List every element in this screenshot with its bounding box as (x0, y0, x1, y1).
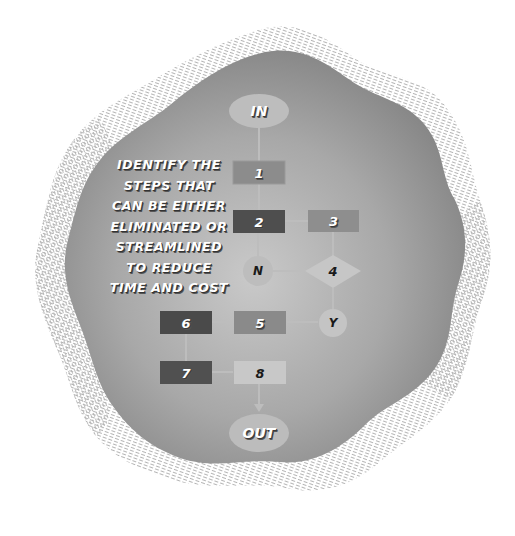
process-flow-diagram: IN 1 2 3 4 N Y 5 6 7 8 OUT IDENTIFY THE … (0, 0, 515, 536)
caption-line: STEPS THAT (103, 176, 235, 197)
caption-line: CAN BE EITHER (103, 196, 235, 217)
caption-line: ELIMINATED OR (103, 217, 235, 238)
no-label: N (243, 262, 273, 280)
step-2-label: 2 (233, 212, 285, 232)
step-7-label: 7 (160, 363, 212, 383)
caption-line: IDENTIFY THE (103, 155, 235, 176)
end-label: OUT (229, 424, 289, 442)
caption-line: TIME AND COST (103, 278, 235, 299)
caption-line: STREAMLINED (103, 237, 235, 258)
step-6-label: 6 (160, 313, 212, 333)
step-1-label: 1 (233, 163, 285, 183)
start-label: IN (229, 102, 289, 120)
diagram-caption: IDENTIFY THE STEPS THAT CAN BE EITHER EL… (103, 155, 235, 299)
yes-label: Y (319, 314, 347, 332)
step-4-label: 4 (318, 261, 348, 281)
step-5-label: 5 (234, 313, 286, 333)
step-3-label: 3 (308, 211, 359, 231)
caption-line: TO REDUCE (103, 258, 235, 279)
step-8-label: 8 (234, 363, 286, 383)
